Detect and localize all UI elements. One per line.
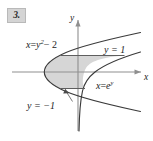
label-line-y-one: y = 1 — [104, 45, 125, 55]
y-axis-label: y — [70, 14, 74, 24]
x-axis-arrowhead — [135, 69, 142, 74]
label-line-y-minus-one: y = −1 — [27, 101, 55, 111]
graph-plot — [0, 0, 153, 141]
label-parabola-constant: − 2 — [44, 39, 57, 50]
label-parabola-equation: x=y2− 2 — [26, 40, 57, 50]
figure-container: 3. x=y2− 2 y = 1 x=ey y = −1 x y — [0, 0, 153, 141]
y-axis-arrowhead — [75, 20, 80, 27]
label-exponential-equation: x=ey — [96, 81, 113, 91]
x-axis-label: x — [144, 73, 148, 83]
label-exponential-exponent: y — [111, 79, 114, 86]
